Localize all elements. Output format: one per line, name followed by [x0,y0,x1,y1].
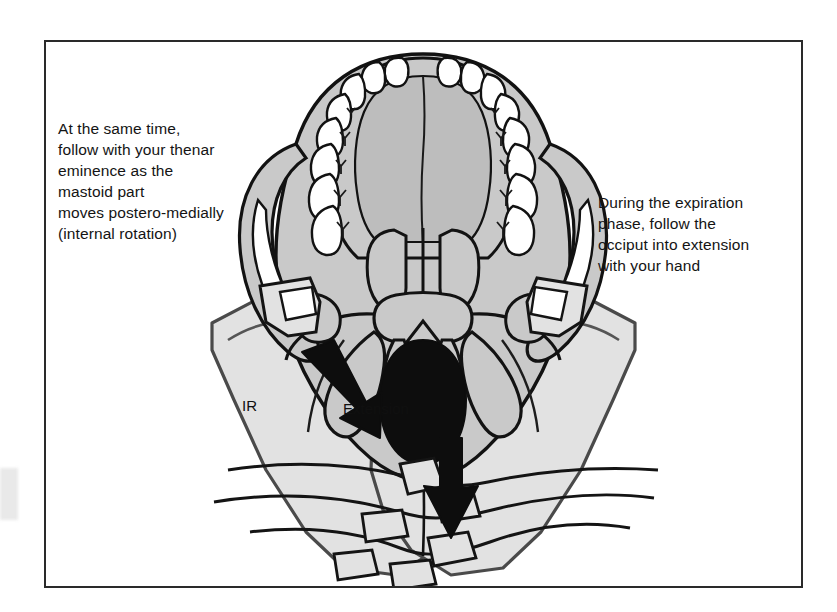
fingertip [390,560,436,588]
fingertip [334,550,378,580]
ir-label: IR [242,397,257,414]
tooth [438,58,462,87]
expiration-instruction: During the expiration phase, follow the … [598,192,813,276]
left-thumb-nail [280,287,316,320]
figure-root: IR Extension At the same time, follow wi… [0,0,837,612]
tooth [385,58,409,87]
extension-label: Extension [343,400,409,417]
page-edge-smudge [0,468,18,520]
right-thumb-nail [531,287,567,320]
internal-rotation-instruction: At the same time, follow with your thena… [58,118,298,244]
fingertip [362,510,408,542]
